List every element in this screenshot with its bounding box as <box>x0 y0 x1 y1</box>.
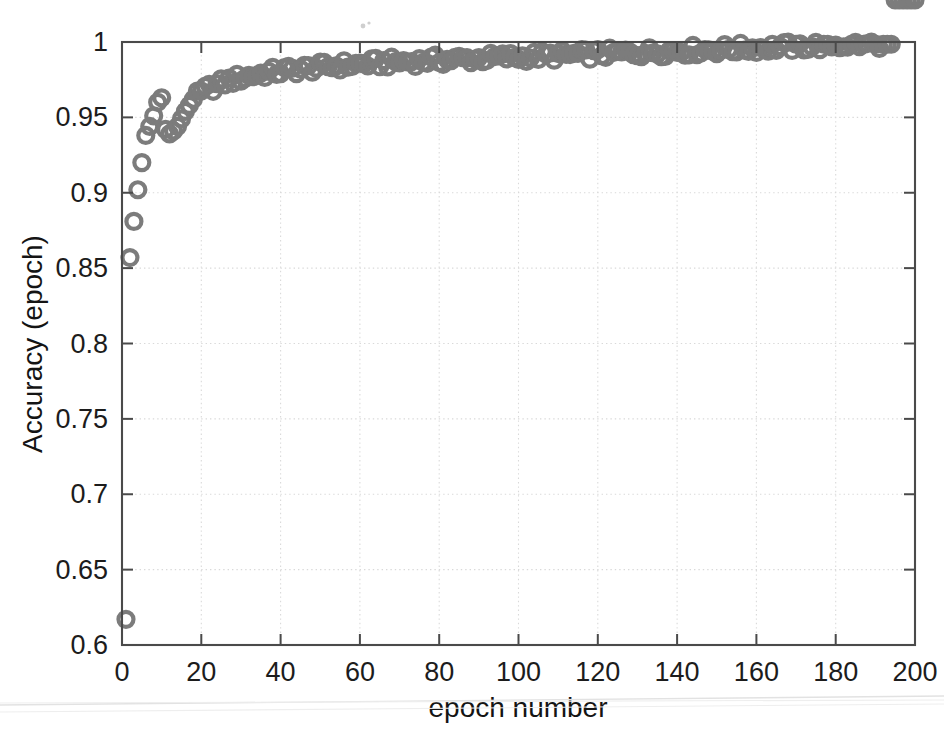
data-point <box>126 214 141 229</box>
y-tick-label: 1 <box>93 27 108 57</box>
y-axis-tick-labels: 0.60.650.70.750.80.850.90.951 <box>55 27 108 660</box>
y-tick-label: 0.9 <box>70 178 108 208</box>
y-tick-label: 0.65 <box>55 555 108 585</box>
horizontal-gridlines <box>122 117 915 569</box>
x-tick-label: 80 <box>424 657 454 687</box>
scatter-plot: 020406080100120140160180200 0.60.650.70.… <box>0 0 944 755</box>
figure-canvas: 020406080100120140160180200 0.60.650.70.… <box>0 0 944 755</box>
data-point <box>134 155 149 170</box>
data-point <box>118 612 133 627</box>
y-tick-label: 0.85 <box>55 253 108 283</box>
x-tick-label: 60 <box>345 657 375 687</box>
data-point-markers <box>118 0 922 627</box>
x-tick-label: 160 <box>734 657 779 687</box>
x-tick-label: 180 <box>813 657 858 687</box>
y-axis-title: Accuracy (epoch) <box>17 235 48 453</box>
x-tick-label: 40 <box>266 657 296 687</box>
y-tick-label: 0.6 <box>70 630 108 660</box>
x-tick-label: 120 <box>575 657 620 687</box>
y-tick-label: 0.8 <box>70 329 108 359</box>
data-point <box>122 250 137 265</box>
x-tick-label: 20 <box>186 657 216 687</box>
y-tick-label: 0.75 <box>55 404 108 434</box>
y-tick-label: 0.95 <box>55 102 108 132</box>
x-tick-label: 100 <box>496 657 541 687</box>
x-tick-label: 140 <box>655 657 700 687</box>
y-tick-label: 0.7 <box>70 479 108 509</box>
data-point <box>130 182 145 197</box>
x-axis-tick-labels: 020406080100120140160180200 <box>114 657 937 687</box>
x-tick-label: 200 <box>892 657 937 687</box>
x-tick-label: 0 <box>114 657 129 687</box>
